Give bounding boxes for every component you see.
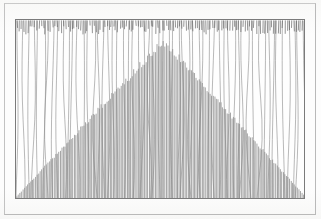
plot-box	[15, 19, 305, 199]
figure-canvas: Dense needle/spike plot: a symmetric tri…	[0, 0, 321, 219]
plot-svg	[16, 20, 305, 199]
top-band-ticks	[17, 20, 305, 34]
